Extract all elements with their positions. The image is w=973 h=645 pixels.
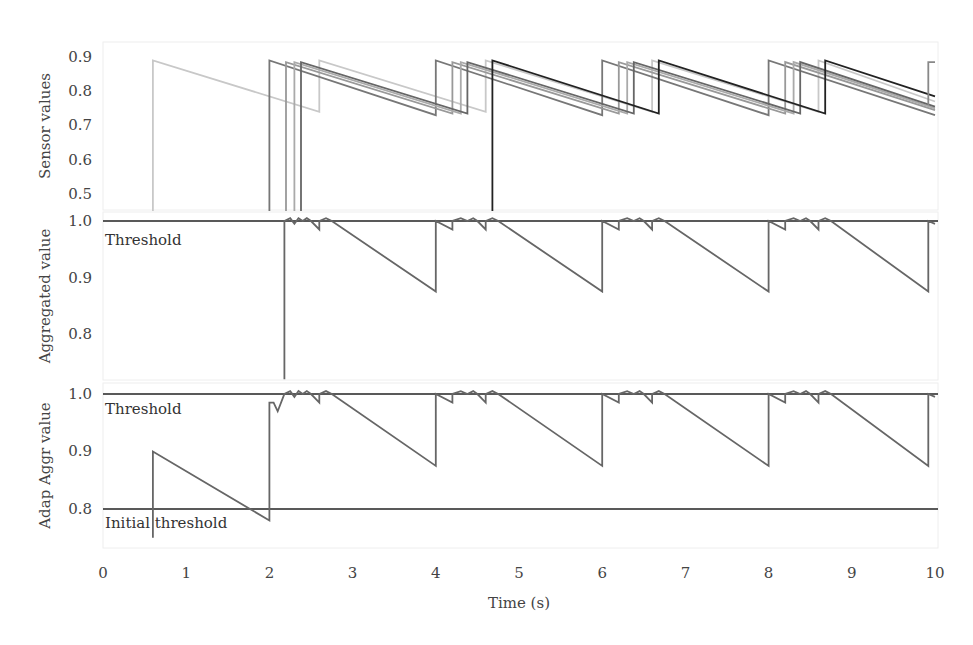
axis-labels: 0.90.80.70.60.5Sensor values1.00.90.8Agg…	[36, 48, 945, 612]
xtick-label: 2	[265, 564, 275, 582]
middle-ytick-label: 1.0	[68, 212, 92, 230]
top-ytick-label: 0.6	[68, 151, 92, 169]
xlabel: Time (s)	[488, 594, 550, 612]
series-lines	[103, 60, 938, 537]
middle-ytick-label: 0.9	[68, 269, 92, 287]
xtick-label: 4	[431, 564, 441, 582]
xtick-label: 3	[348, 564, 358, 582]
bot-threshold-label: Threshold	[105, 400, 182, 418]
xtick-label: 7	[681, 564, 691, 582]
xtick-label: 1	[181, 564, 191, 582]
bottom-ytick-label: 1.0	[68, 385, 92, 403]
bottom-ytick-label: 0.9	[68, 442, 92, 460]
xtick-label: 8	[764, 564, 774, 582]
top-ytick-label: 0.7	[68, 116, 92, 134]
xtick-label: 6	[597, 564, 607, 582]
bottom-ytick-label: 0.8	[68, 500, 92, 518]
top-series-sensor-3	[286, 62, 935, 211]
bottom-panel-frame	[103, 383, 938, 548]
bottom-series-adaptive-aggregated	[153, 391, 935, 538]
bottom-ylabel: Adap Aggr value	[36, 402, 54, 530]
top-ytick-label: 0.5	[68, 185, 92, 203]
xtick-label: 5	[514, 564, 524, 582]
xtick-label: 0	[98, 564, 108, 582]
top-ytick-label: 0.9	[68, 48, 92, 66]
middle-series-aggregated	[284, 218, 935, 379]
xtick-label: 10	[925, 564, 944, 582]
chart-figure: 0.90.80.70.60.5Sensor values1.00.90.8Agg…	[0, 0, 973, 645]
middle-ytick-label: 0.8	[68, 325, 92, 343]
initial-threshold-label: Initial threshold	[105, 514, 228, 532]
top-ytick-label: 0.8	[68, 82, 92, 100]
mid-threshold-label: Threshold	[105, 231, 182, 249]
top-ylabel: Sensor values	[36, 73, 54, 179]
panel-frames	[103, 42, 938, 548]
middle-ylabel: Aggregated value	[36, 229, 54, 365]
xtick-label: 9	[847, 564, 857, 582]
